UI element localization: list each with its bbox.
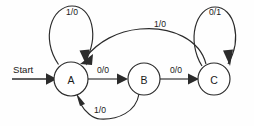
state-c-label: C — [210, 74, 218, 86]
transition-b-to-c-arrowhead — [188, 73, 199, 84]
state-node-b[interactable]: B — [128, 63, 160, 95]
transition-c-to-a-path — [86, 29, 206, 64]
state-node-a[interactable]: A — [54, 62, 88, 96]
state-node-c[interactable]: C — [198, 63, 230, 95]
transition-b-to-a-path — [80, 94, 139, 119]
transition-c-to-a — [80, 29, 206, 65]
start-arrow — [12, 73, 57, 85]
transition-b-to-a-label: 1/0 — [94, 105, 106, 115]
transition-b-to-a — [76, 93, 139, 119]
state-b-label: B — [140, 74, 147, 86]
state-diagram-canvas: Start 1/0 0/0 0/0 0/1 1/0 — [0, 0, 254, 126]
transition-c-to-a-label: 1/0 — [154, 19, 166, 29]
transition-a-to-a-label: 1/0 — [66, 7, 78, 17]
state-machine-diagram: Start 1/0 0/0 0/0 0/1 1/0 — [0, 0, 254, 126]
transition-a-to-b-label: 0/0 — [97, 65, 109, 75]
state-a-label: A — [67, 74, 74, 86]
transition-b-to-c — [160, 73, 199, 84]
start-label: Start — [13, 64, 34, 75]
transition-a-to-b-arrowhead — [117, 73, 128, 84]
transition-b-to-c-label: 0/0 — [170, 65, 182, 75]
transition-c-to-c-label: 0/1 — [209, 7, 221, 17]
transition-a-to-b — [88, 73, 128, 84]
